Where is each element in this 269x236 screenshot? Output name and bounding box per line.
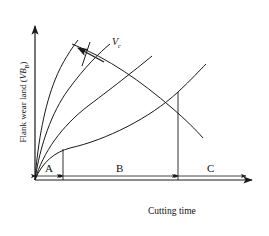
- y-axis-label-close: ): [18, 61, 28, 64]
- cutting-speed-label: Vc: [112, 36, 121, 49]
- x-axis-label: Cutting time: [148, 206, 196, 216]
- cutting-speed-arrow: [78, 48, 104, 62]
- y-axis-label-symbol: VB: [18, 68, 28, 79]
- wear-curve-2: [35, 44, 110, 180]
- zone-label-b: B: [116, 162, 123, 174]
- zone-label-c: C: [207, 162, 214, 174]
- y-axis-label-subscript: B: [24, 64, 30, 68]
- zone-label-a: A: [45, 162, 53, 174]
- y-axis-label-text: Flank wear land (: [18, 79, 28, 142]
- wear-out-locus-arc: [72, 44, 203, 138]
- figure-canvas: [0, 0, 269, 236]
- cutting-speed-subscript: c: [118, 42, 121, 49]
- tool-wear-figure: Flank wear land (VBB) Cutting time Vc A …: [0, 0, 269, 236]
- y-axis-label: Flank wear land (VBB): [18, 32, 30, 172]
